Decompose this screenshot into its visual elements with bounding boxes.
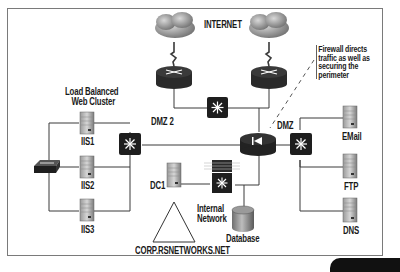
layer3-switch-icon [204,160,240,193]
internet-label: INTERNET [204,20,242,30]
internal-network-line: Network [197,214,227,224]
database-icon [232,206,254,232]
domain-label: CORP.RSNETWORKS.NET [135,246,230,256]
server-icon-iis2 [80,156,94,178]
server-icon-dc1 [167,163,181,187]
database-label: Database [226,234,259,244]
server-icon-iis3 [80,199,94,221]
internet-cloud-icon [155,12,195,38]
router-icon [251,66,287,89]
dns-label: DNS [343,226,359,236]
iis3-label: IIS3 [81,225,94,235]
ftp-label: FTP [344,182,358,192]
switch-icon [207,97,228,118]
domain-triangle-icon [153,202,195,242]
server-icon-email [343,106,357,128]
firewall-icon [240,133,276,156]
server-icon-iis1 [80,112,94,134]
dmz2-label: DMZ 2 [151,117,174,127]
email-label: EMail [342,132,362,142]
switch-icon [290,133,312,155]
router-icon [156,66,192,89]
server-icon-ftp [343,154,357,178]
firewall-callout: Firewall directs traffic as well as secu… [316,45,370,79]
callout-line: perimeter [318,71,369,80]
web-cluster-label-line: Web Cluster [65,97,118,107]
corner-tab [330,258,400,272]
iis2-label: IIS2 [81,181,94,191]
dc1-label: DC1 [150,181,165,191]
web-cluster-label: Load Balanced Web Cluster [65,87,118,107]
load-balancer-icon [34,160,60,173]
internal-network-label: Internal Network [197,204,227,223]
dmz-label: DMZ [277,121,293,131]
internet-cloud-icon [249,12,289,38]
switch-icon [119,133,141,155]
iis1-label: IIS1 [81,137,94,147]
server-icon-dns [343,198,357,222]
